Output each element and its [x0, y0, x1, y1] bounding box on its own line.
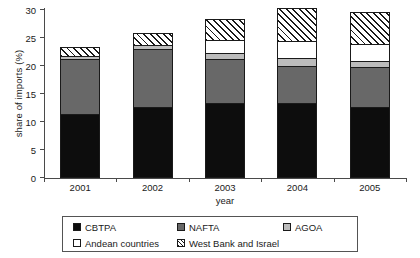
- bar-segment-wbi-2004[interactable]: [277, 8, 317, 41]
- bar-2001[interactable]: [60, 10, 100, 178]
- x-tick: [406, 178, 407, 182]
- legend-swatch-nafta-icon: [177, 223, 185, 231]
- legend-row-top: CBTPA NAFTA AGOA: [63, 219, 357, 235]
- legend-swatch-andean-icon: [73, 239, 81, 247]
- legend-item-agoa: AGOA: [283, 219, 322, 235]
- x-tick-label-2001: 2001: [50, 182, 110, 193]
- legend-label-cbtpa: CBTPA: [85, 222, 116, 233]
- legend-swatch-cbtpa-icon: [73, 223, 81, 231]
- x-axis-line: [44, 178, 406, 179]
- bar-segment-cbtpa-2002[interactable]: [133, 107, 173, 178]
- bar-segment-agoa-2003[interactable]: [205, 53, 245, 61]
- bar-segment-andean-2005[interactable]: [350, 44, 390, 62]
- legend-item-nafta: NAFTA: [177, 219, 283, 235]
- y-tick-label: 15: [25, 88, 36, 99]
- legend-row-bottom: Andean countries West Bank and Israel: [63, 235, 357, 251]
- bar-segment-wbi-2002[interactable]: [133, 33, 173, 46]
- x-tick-label-2002: 2002: [123, 182, 183, 193]
- x-tick-label-2005: 2005: [340, 182, 400, 193]
- plot-area: 051015202530: [44, 10, 406, 178]
- y-axis-title: share of imports (%): [13, 19, 24, 169]
- bar-segment-cbtpa-2001[interactable]: [60, 114, 100, 178]
- bar-segment-nafta-2001[interactable]: [60, 59, 100, 115]
- x-tick-label-2004: 2004: [267, 182, 327, 193]
- x-axis-title: year: [44, 195, 406, 206]
- legend-item-west-bank-israel: West Bank and Israel: [177, 235, 279, 251]
- legend-label-agoa: AGOA: [295, 222, 322, 233]
- legend-swatch-west-bank-israel-icon: [177, 239, 185, 247]
- y-tick-label: 5: [31, 144, 36, 155]
- bar-2003[interactable]: [205, 10, 245, 178]
- x-tick-label-2003: 2003: [195, 182, 255, 193]
- legend-label-west-bank-israel: West Bank and Israel: [189, 238, 279, 249]
- legend-label-andean: Andean countries: [85, 238, 159, 249]
- legend-item-andean: Andean countries: [73, 235, 177, 251]
- x-axis-tick-labels: 20012002200320042005: [44, 182, 406, 196]
- legend-swatch-agoa-icon: [283, 223, 291, 231]
- legend-label-nafta: NAFTA: [189, 222, 219, 233]
- bar-segment-wbi-2001[interactable]: [60, 47, 100, 57]
- bar-2004[interactable]: [277, 10, 317, 178]
- legend-item-cbtpa: CBTPA: [73, 219, 177, 235]
- y-tick-label: 10: [25, 116, 36, 127]
- bar-2005[interactable]: [350, 10, 390, 178]
- chart-legend: CBTPA NAFTA AGOA Andean countries West B…: [62, 216, 358, 252]
- bar-segment-nafta-2005[interactable]: [350, 67, 390, 108]
- bar-2002[interactable]: [133, 10, 173, 178]
- y-tick-label: 25: [25, 32, 36, 43]
- y-tick-label: 0: [31, 172, 36, 183]
- bars-container: [44, 10, 406, 178]
- bar-segment-nafta-2002[interactable]: [133, 49, 173, 108]
- bar-segment-wbi-2003[interactable]: [205, 19, 245, 41]
- bar-segment-andean-2004[interactable]: [277, 41, 317, 59]
- bar-segment-wbi-2005[interactable]: [350, 12, 390, 45]
- stacked-bar-chart-figure: share of imports (%) 051015202530 200120…: [0, 0, 420, 258]
- y-tick-label: 20: [25, 60, 36, 71]
- y-tick-label: 30: [25, 4, 36, 15]
- bar-segment-nafta-2004[interactable]: [277, 66, 317, 104]
- bar-segment-cbtpa-2004[interactable]: [277, 103, 317, 178]
- bar-segment-agoa-2004[interactable]: [277, 58, 317, 66]
- bar-segment-cbtpa-2005[interactable]: [350, 107, 390, 178]
- bar-segment-cbtpa-2003[interactable]: [205, 103, 245, 178]
- bar-segment-nafta-2003[interactable]: [205, 59, 245, 104]
- bar-segment-andean-2003[interactable]: [205, 40, 245, 54]
